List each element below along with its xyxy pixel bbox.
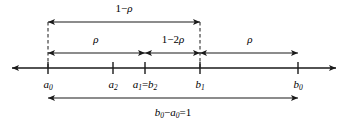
- measure-label-mid-one-minus-two-rho: 1−2ρ: [162, 34, 185, 45]
- measure-label-top-one-minus-rho: 1−ρ: [116, 3, 133, 14]
- tick-label-a0: a0: [43, 79, 52, 90]
- tick-label-a1b2: a1=b2: [133, 79, 158, 90]
- measure-label-mid-rho-left: ρ: [93, 34, 98, 45]
- tick-label-b0: b0: [293, 79, 302, 90]
- tick-label-b1: b1: [195, 79, 204, 90]
- interval-bisection-diagram: a0a2a1=b2b1b01−ρρ1−2ρρb0−a0=1: [0, 0, 344, 124]
- tick-label-a2: a2: [108, 79, 117, 90]
- measure-label-bottom-total-length: b0−a0=1: [155, 107, 191, 118]
- measure-label-mid-rho-right: ρ: [247, 34, 252, 45]
